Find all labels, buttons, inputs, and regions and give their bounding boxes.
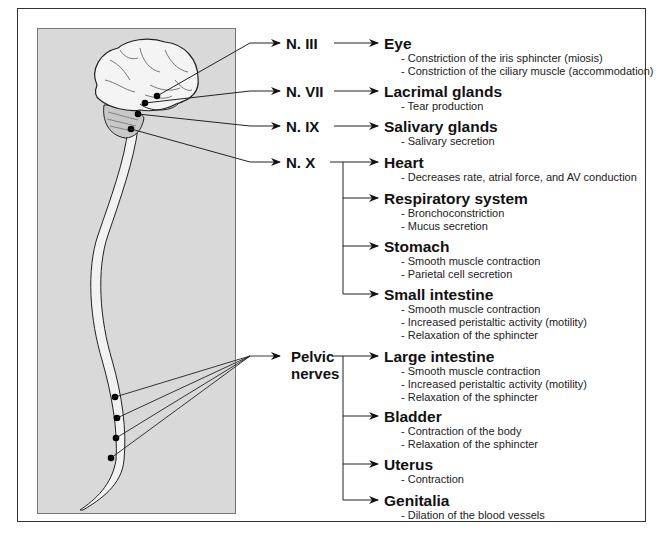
organ-effect: - Increased peristaltic activity (motili… bbox=[384, 316, 587, 329]
nerve-label-n10: N. X bbox=[286, 154, 315, 171]
organ-title: Stomach bbox=[384, 238, 540, 255]
nerve-label-n7: N. VII bbox=[286, 83, 324, 100]
organ-title: Salivary glands bbox=[384, 118, 498, 135]
spinal-cord-icon bbox=[80, 128, 138, 510]
organ-effect: - Parietal cell secretion bbox=[384, 268, 540, 281]
organ-lacrimal-glands: Lacrimal glands - Tear production bbox=[384, 83, 502, 113]
organ-effect: - Contraction of the body bbox=[384, 425, 538, 438]
organ-effect: - Tear production bbox=[384, 100, 502, 113]
organ-effect: - Contraction bbox=[384, 473, 464, 486]
organ-effect: - Relaxation of the sphincter bbox=[384, 438, 538, 451]
organ-title: Heart bbox=[384, 154, 637, 171]
organ-effect: - Constriction of the ciliary muscle (ac… bbox=[384, 65, 653, 78]
organ-heart: Heart - Decreases rate, atrial force, an… bbox=[384, 154, 637, 184]
nerve-label-n9: N. IX bbox=[286, 118, 319, 135]
organ-effect: - Smooth muscle contraction bbox=[384, 303, 587, 316]
pelvic-line2: nerves bbox=[291, 365, 339, 382]
organ-small-intestine: Small intestine - Smooth muscle contract… bbox=[384, 286, 587, 342]
organ-respiratory-system: Respiratory system - Bronchoconstriction… bbox=[384, 190, 528, 233]
nerve-label-pelvic: Pelvic nerves bbox=[291, 348, 339, 382]
organ-effect: - Smooth muscle contraction bbox=[384, 255, 540, 268]
organ-salivary-glands: Salivary glands - Salivary secretion bbox=[384, 118, 498, 148]
organ-title: Small intestine bbox=[384, 286, 587, 303]
organ-bladder: Bladder - Contraction of the body - Rela… bbox=[384, 408, 538, 451]
organ-title: Large intestine bbox=[384, 348, 587, 365]
organ-effect: - Salivary secretion bbox=[384, 135, 498, 148]
organ-title: Uterus bbox=[384, 456, 464, 473]
organ-genitalia: Genitalia - Dilation of the blood vessel… bbox=[384, 492, 545, 522]
organ-effect: - Mucus secretion bbox=[384, 220, 528, 233]
anatomy-illustration bbox=[0, 0, 667, 557]
organ-effect: - Decreases rate, atrial force, and AV c… bbox=[384, 171, 637, 184]
pelvic-line1: Pelvic bbox=[291, 348, 339, 365]
organ-stomach: Stomach - Smooth muscle contraction - Pa… bbox=[384, 238, 540, 281]
organ-large-intestine: Large intestine - Smooth muscle contract… bbox=[384, 348, 587, 404]
organ-title: Lacrimal glands bbox=[384, 83, 502, 100]
organ-effect: - Increased peristaltic activity (motili… bbox=[384, 378, 587, 391]
organ-effect: - Relaxation of the sphincter bbox=[384, 329, 587, 342]
organ-effect: - Relaxation of the sphincter bbox=[384, 391, 587, 404]
organ-effect: - Constriction of the iris sphincter (mi… bbox=[384, 52, 653, 65]
brain-icon bbox=[95, 39, 199, 111]
nerve-label-n3: N. III bbox=[286, 35, 318, 52]
organ-effect: - Dilation of the blood vessels bbox=[384, 509, 545, 522]
organ-title: Respiratory system bbox=[384, 190, 528, 207]
organ-title: Eye bbox=[384, 35, 653, 52]
organ-effect: - Bronchoconstriction bbox=[384, 207, 528, 220]
organ-uterus: Uterus - Contraction bbox=[384, 456, 464, 486]
organ-eye: Eye - Constriction of the iris sphincter… bbox=[384, 35, 653, 78]
organ-title: Bladder bbox=[384, 408, 538, 425]
organ-effect: - Smooth muscle contraction bbox=[384, 365, 587, 378]
organ-title: Genitalia bbox=[384, 492, 545, 509]
